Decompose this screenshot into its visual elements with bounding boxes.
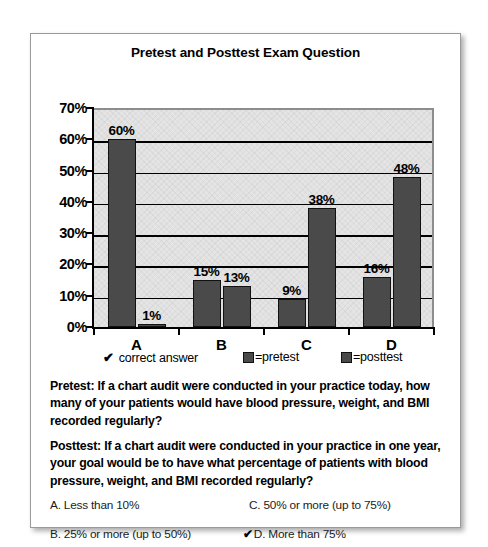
bar-c-posttest — [308, 208, 336, 327]
x-axis-tick — [178, 327, 180, 335]
bar-value-label: 48% — [394, 161, 420, 176]
bar-value-label: 60% — [109, 123, 135, 138]
bar-value-label: 13% — [224, 270, 250, 285]
answer-option-label: A. Less than 10% — [50, 498, 139, 512]
bar-d-posttest — [393, 177, 421, 327]
bar-value-label: 16% — [364, 261, 390, 276]
x-axis-tick — [433, 327, 435, 335]
y-axis-tick-label: 10% — [59, 288, 87, 304]
y-axis-labels: 0%10%20%30%40%50%60%70% — [31, 64, 93, 332]
page-root: Pretest and Posttest Exam Question 0%10%… — [0, 0, 488, 547]
bar-d-pretest — [363, 277, 391, 327]
bar-a-pretest — [108, 139, 136, 327]
pretest-swatch-icon — [243, 352, 254, 363]
gridline — [94, 173, 432, 175]
y-axis-tick-label: 70% — [59, 100, 87, 116]
bar-c-pretest — [278, 299, 306, 327]
y-axis-tick-label: 30% — [59, 225, 87, 241]
y-axis-tick-label: 60% — [59, 131, 87, 147]
answer-option-label: C. 50% or more (up to 75%) — [249, 498, 391, 512]
check-icon: ✔ — [243, 527, 253, 541]
x-axis-tick — [93, 327, 95, 335]
bar-b-posttest — [223, 286, 251, 327]
bar-b-pretest — [193, 280, 221, 327]
y-axis-tick-label: 50% — [59, 163, 87, 179]
gridline — [94, 235, 432, 237]
answer-options: A. Less than 10%B. 25% or more (up to 50… — [50, 498, 442, 547]
answer-option-label: D. More than 75% — [254, 527, 346, 541]
chart-title: Pretest and Posttest Exam Question — [31, 45, 460, 60]
bar-value-label: 9% — [282, 283, 301, 298]
bar-value-label: 38% — [309, 192, 335, 207]
answer-option-label: B. 25% or more (up to 50%) — [50, 527, 191, 541]
answer-option-c[interactable]: C. 50% or more (up to 75%) — [249, 498, 391, 512]
gridline — [94, 141, 432, 143]
x-axis-tick — [348, 327, 350, 335]
posttest-question: Posttest: If a chart audit were conducte… — [50, 438, 442, 490]
bar-value-label: 15% — [194, 264, 220, 279]
y-axis-tick-label: 20% — [59, 256, 87, 272]
posttest-swatch-icon — [341, 352, 352, 363]
answer-option-d[interactable]: ✔D. More than 75% — [243, 527, 346, 541]
legend-pretest-label: =pretest — [255, 350, 299, 364]
gridline — [94, 204, 432, 206]
pretest-question: Pretest: If a chart audit were conducted… — [50, 378, 442, 430]
y-axis-tick-label: 0% — [67, 319, 87, 335]
legend-correct-answer-label: correct answer — [119, 351, 198, 365]
x-axis-tick — [263, 327, 265, 335]
answer-option-a[interactable]: A. Less than 10% — [50, 498, 139, 512]
y-axis-tick-label: 40% — [59, 194, 87, 210]
legend-pretest: =pretest — [243, 350, 299, 364]
chart-legend: ✔ correct answer =pretest =posttest — [31, 348, 462, 370]
legend-posttest: =posttest — [341, 350, 402, 364]
bar-value-label: 1% — [142, 308, 161, 323]
figure-panel: Pretest and Posttest Exam Question 0%10%… — [30, 33, 461, 528]
legend-posttest-label: =posttest — [353, 350, 402, 364]
legend-correct-answer: ✔ correct answer — [103, 350, 198, 365]
bar-chart: 0%10%20%30%40%50%60%70% 60%1%15%13%9%38%… — [31, 64, 462, 349]
plot-area: 60%1%15%13%9%38%16%48% — [94, 108, 434, 327]
cut-off-header-trace — [250, 0, 400, 5]
check-icon: ✔ — [103, 350, 114, 365]
answer-option-b[interactable]: B. 25% or more (up to 50%) — [50, 527, 191, 541]
